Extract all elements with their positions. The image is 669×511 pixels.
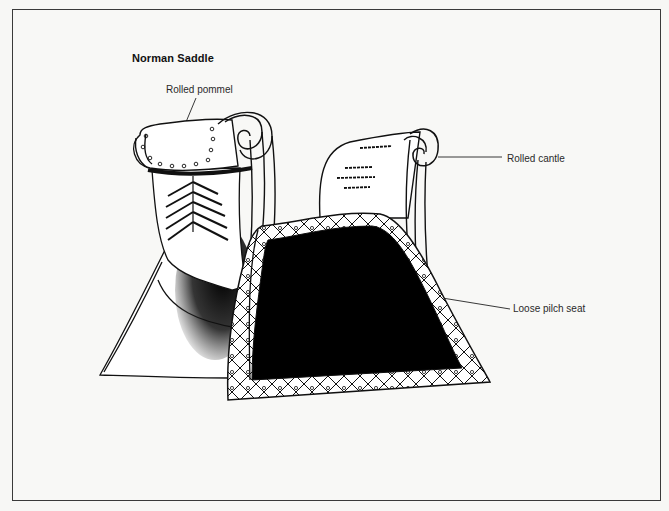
saddle-illustration — [0, 0, 669, 511]
pilch-seat — [228, 213, 490, 400]
